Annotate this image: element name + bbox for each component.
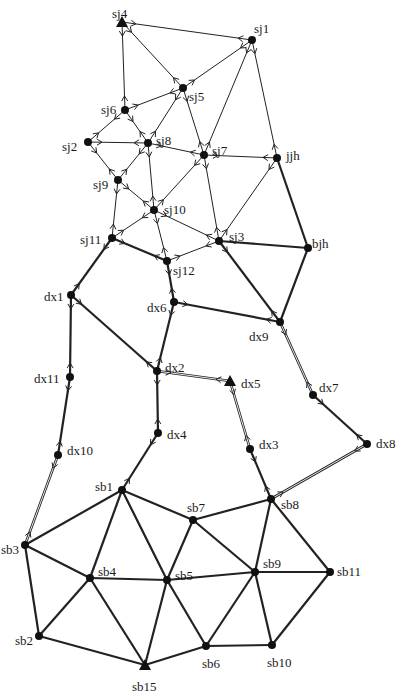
edge-sb9-sb6 [206, 572, 255, 646]
edge-sj6-sj5 [125, 88, 183, 110]
labels-layer: sj4sj1sj5sj6sj2sj8sj7jjhsj9sj10sj11sj3bj… [1, 6, 396, 694]
node-label-dx7: dx7 [319, 380, 339, 395]
edge-sb1-sb7 [122, 490, 193, 520]
arrow-icon [142, 212, 148, 217]
node-dx8 [363, 440, 371, 448]
edge-sb3-sb4 [25, 545, 90, 578]
node-label-sb7: sb7 [187, 500, 206, 515]
node-label-sb2: sb2 [15, 633, 33, 648]
edge-sb1-sb3 [25, 490, 122, 545]
node-sb9 [251, 568, 259, 576]
edge-jjh-sj3 [219, 158, 277, 241]
node-dx4 [154, 429, 162, 437]
node-dx10 [54, 451, 62, 459]
edge-bjh-dx9 [280, 248, 308, 322]
node-sj8 [144, 139, 152, 147]
edge-inner-dx8-sb8 [271, 444, 367, 499]
node-label-dx2: dx2 [165, 360, 185, 375]
node-label-dx8: dx8 [376, 436, 396, 451]
edge-sj9-sj10 [118, 180, 154, 210]
node-dx3 [246, 445, 254, 453]
node-label-sj1: sj1 [254, 21, 269, 36]
edge-dx1-dx2 [71, 295, 157, 371]
edge-dx4-sb1 [122, 433, 158, 490]
node-sj9 [114, 176, 122, 184]
node-dx6 [170, 298, 178, 306]
node-label-sb1: sb1 [95, 479, 113, 494]
node-label-sj8: sj8 [156, 133, 171, 148]
edge-sb7-sb9 [193, 520, 255, 572]
arrow-icon [118, 230, 124, 235]
edge-sj6-sj8 [125, 110, 148, 143]
node-jjh [273, 154, 281, 162]
node-label-sj9: sj9 [93, 177, 108, 192]
arrow-icon [140, 132, 145, 138]
node-label-sb8: sb8 [281, 497, 299, 512]
node-label-sb4: sb4 [98, 564, 117, 579]
node-dx9 [276, 318, 284, 326]
edge-sb6-sb15 [145, 646, 206, 665]
node-label-dx11: dx11 [34, 371, 60, 386]
edge-sj10-sj12 [154, 210, 167, 261]
edge-sj9-sj11 [112, 180, 118, 238]
node-sb1 [118, 486, 126, 494]
node-sb7 [189, 516, 197, 524]
edge-sj1-jjh [252, 40, 277, 158]
edge-dx3-sb8 [250, 449, 271, 499]
edge-sj4-sj1 [122, 22, 252, 40]
node-label-sj12: sj12 [173, 263, 195, 278]
node-label-sj4: sj4 [112, 6, 128, 21]
edge-sb5-sb15 [145, 580, 167, 665]
node-dx1 [67, 291, 75, 299]
node-sb5 [163, 576, 171, 584]
node-dx11 [66, 373, 74, 381]
node-label-sb6: sb6 [202, 656, 221, 671]
edge-sj2-sj8 [88, 142, 148, 143]
edge-sj10-sj11 [112, 210, 154, 238]
edge-sb9-sb10 [255, 572, 272, 645]
edge-jjh-bjh [277, 158, 308, 248]
edge-sj11-sj12 [112, 238, 167, 261]
node-bjh [304, 244, 312, 252]
network-diagram: sj4sj1sj5sj6sj2sj8sj7jjhsj9sj10sj11sj3bj… [0, 0, 400, 694]
node-sb6 [202, 642, 210, 650]
edge-dx2-dx4 [157, 371, 158, 433]
node-label-jjh: jjh [285, 148, 300, 163]
edges-layer [25, 22, 367, 665]
node-label-sj6: sj6 [101, 102, 117, 117]
edge-dx6-dx9 [174, 302, 280, 322]
node-sj1 [248, 36, 256, 44]
node-sb10 [268, 641, 276, 649]
node-sj2 [84, 138, 92, 146]
node-sj10 [150, 206, 158, 214]
node-label-sj5: sj5 [189, 89, 204, 104]
node-label-sb9: sb9 [263, 556, 281, 571]
node-label-sj10: sj10 [164, 202, 186, 217]
node-label-dx6: dx6 [147, 300, 167, 315]
edge-dx7-dx8 [313, 395, 367, 444]
edge-sb4-sb2 [39, 578, 90, 636]
node-sb11 [326, 568, 334, 576]
node-label-dx4: dx4 [167, 427, 187, 442]
edge-sj2-sj9 [88, 142, 118, 180]
node-sj7 [200, 151, 208, 159]
node-dx7 [309, 391, 317, 399]
node-label-sb5: sb5 [175, 568, 193, 583]
node-label-sb10: sb10 [267, 655, 292, 670]
node-label-dx5: dx5 [241, 376, 261, 391]
node-label-sb15: sb15 [132, 679, 157, 694]
node-sb4 [86, 574, 94, 582]
arrow-icon [269, 164, 274, 170]
node-label-sj7: sj7 [212, 143, 228, 158]
node-label-dx9: dx9 [249, 329, 269, 344]
node-sj11 [108, 234, 116, 242]
node-label-dx10: dx10 [67, 443, 93, 458]
node-label-sb11: sb11 [337, 564, 361, 579]
node-sb2 [35, 632, 43, 640]
node-dx2 [153, 367, 161, 375]
edge-sj8-sj9 [118, 143, 148, 180]
node-label-dx1: dx1 [44, 289, 64, 304]
node-label-sj3: sj3 [229, 229, 244, 244]
node-label-dx3: dx3 [259, 437, 279, 452]
node-sj5 [179, 84, 187, 92]
